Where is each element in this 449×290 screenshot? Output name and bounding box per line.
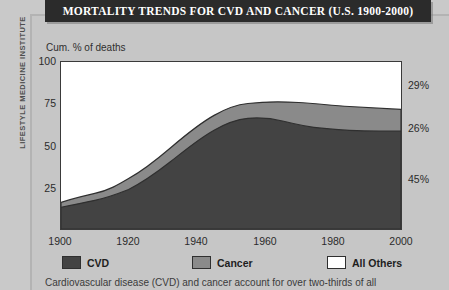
right-label-cvd: 45%: [408, 173, 429, 185]
legend-swatch-cvd: [62, 256, 81, 269]
legend-item-cvd: CVD: [62, 256, 192, 269]
x-tick-1960: 1960: [242, 235, 288, 247]
right-label-all-others: 29%: [408, 79, 429, 91]
y-tick-75: 75: [22, 97, 56, 109]
y-tick-50: 50: [22, 140, 56, 152]
y-tick-100: 100: [22, 55, 56, 67]
legend-label-all-others: All Others: [352, 257, 402, 269]
legend-swatch-cancer: [192, 256, 211, 269]
legend-item-cancer: Cancer: [192, 256, 327, 269]
x-tick-1940: 1940: [173, 235, 219, 247]
chart-legend: CVD Cancer All Others: [62, 256, 402, 269]
y-tick-25: 25: [22, 182, 56, 194]
chart-title: MORTALITY TRENDS FOR CVD AND CANCER (U.S…: [45, 0, 431, 22]
legend-label-cvd: CVD: [87, 257, 109, 269]
legend-swatch-all-others: [327, 256, 346, 269]
x-tick-1920: 1920: [105, 235, 151, 247]
chart-caption: Cardiovascular disease (CVD) and cancer …: [45, 277, 435, 288]
area-chart-plot: [60, 61, 402, 230]
legend-item-all-others: All Others: [327, 256, 402, 269]
x-tick-1900: 1900: [37, 235, 83, 247]
area-chart-svg: [61, 62, 401, 229]
x-tick-2000: 2000: [378, 235, 424, 247]
x-tick-1980: 1980: [310, 235, 356, 247]
y-axis-label: Cum. % of deaths: [46, 42, 125, 53]
cvd-area: [61, 118, 401, 229]
institute-side-label: LIFESTYLE MEDICINE INSTITUTE: [18, 13, 27, 153]
legend-label-cancer: Cancer: [217, 257, 253, 269]
right-label-cancer: 26%: [408, 122, 429, 134]
